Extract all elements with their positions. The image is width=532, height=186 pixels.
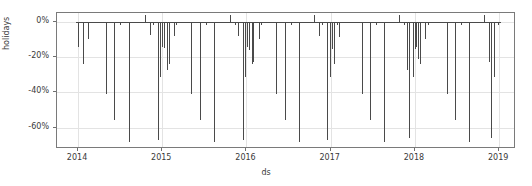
x-tick-mark xyxy=(77,148,78,151)
x-tick-label: 2014 xyxy=(57,153,97,162)
holiday-stem xyxy=(407,22,408,71)
holiday-stem xyxy=(249,22,250,50)
holiday-stem xyxy=(425,22,426,39)
holiday-stem xyxy=(88,22,89,39)
holiday-stem xyxy=(362,22,363,94)
holiday-stem xyxy=(447,22,448,94)
holiday-stem xyxy=(409,22,410,139)
zero-baseline xyxy=(76,22,500,23)
holiday-stem xyxy=(114,22,115,120)
holiday-stem xyxy=(491,22,492,139)
holiday-stem xyxy=(243,22,244,140)
holiday-stem xyxy=(230,15,231,22)
holiday-stem xyxy=(145,15,146,22)
holiday-stem xyxy=(299,22,300,142)
plot-area xyxy=(56,12,515,148)
holiday-stem xyxy=(276,22,277,94)
x-axis-label: ds xyxy=(0,168,532,177)
holiday-stem xyxy=(214,22,215,142)
holiday-stem xyxy=(370,22,371,120)
x-tick-label: 2018 xyxy=(394,153,434,162)
holiday-stem xyxy=(416,22,417,47)
gridline-vertical xyxy=(499,13,500,147)
holiday-stem xyxy=(285,22,286,120)
x-tick-mark xyxy=(498,148,499,151)
holiday-stem xyxy=(420,22,421,64)
holiday-stem xyxy=(455,22,456,120)
holiday-stem xyxy=(238,22,239,36)
holiday-stem xyxy=(158,22,159,140)
x-tick-mark xyxy=(245,148,246,151)
holiday-stem xyxy=(164,22,165,48)
holiday-stem xyxy=(245,22,246,77)
x-tick-mark xyxy=(330,148,331,151)
gridline-horizontal xyxy=(57,128,514,129)
holiday-stem xyxy=(106,22,107,94)
holiday-stem xyxy=(314,15,315,22)
y-tick-label: -40% xyxy=(9,86,49,95)
holiday-stem xyxy=(200,22,201,120)
holiday-stem xyxy=(78,22,79,48)
holidays-component-chart: holidays 0%-20%-40%-60% 2014201520162017… xyxy=(0,0,532,186)
holiday-stem xyxy=(494,22,495,77)
holiday-stem xyxy=(399,15,400,22)
holiday-stem xyxy=(330,22,331,77)
holiday-stem xyxy=(319,22,320,36)
holiday-stem xyxy=(469,22,470,142)
holiday-stem xyxy=(484,15,485,22)
holiday-stem xyxy=(413,22,414,77)
holiday-stem xyxy=(150,22,151,35)
holiday-stem xyxy=(253,22,254,62)
x-tick-label: 2017 xyxy=(310,153,350,162)
holiday-stem xyxy=(339,22,340,37)
y-tick-label: -20% xyxy=(9,51,49,60)
x-tick-mark xyxy=(414,148,415,151)
holiday-stem xyxy=(174,22,175,36)
y-tick-label: 0% xyxy=(9,16,49,25)
holiday-stem xyxy=(327,22,328,140)
x-tick-label: 2016 xyxy=(225,153,265,162)
y-tick-label: -60% xyxy=(9,122,49,131)
holiday-stem xyxy=(83,22,84,64)
holiday-stem xyxy=(489,22,490,62)
x-tick-label: 2019 xyxy=(478,153,518,162)
holiday-stem xyxy=(160,22,161,77)
x-tick-label: 2015 xyxy=(141,153,181,162)
holiday-stem xyxy=(334,22,335,64)
holiday-stem xyxy=(259,22,260,39)
holiday-stem xyxy=(191,22,192,94)
holiday-stem xyxy=(169,22,170,64)
holiday-stem xyxy=(384,22,385,142)
x-tick-mark xyxy=(161,148,162,151)
holiday-stem xyxy=(129,22,130,142)
